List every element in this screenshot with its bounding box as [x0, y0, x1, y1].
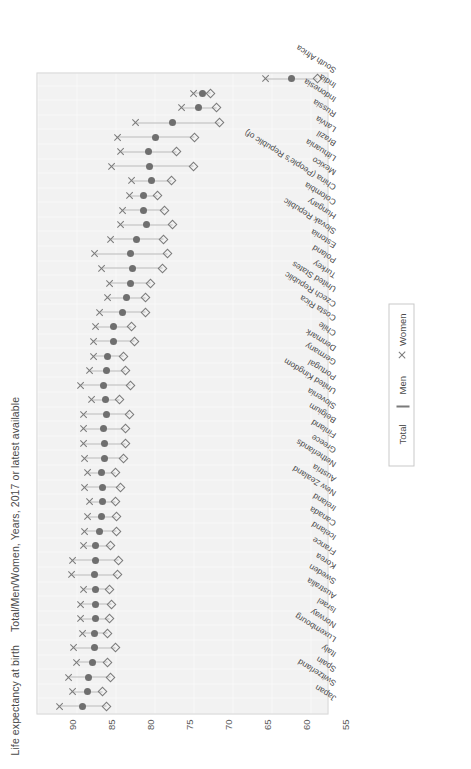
data-point-total[interactable] [126, 279, 133, 286]
page-title: Life expectancy at birth [8, 645, 20, 755]
data-point-women[interactable] [90, 322, 99, 331]
data-point-women[interactable] [104, 278, 113, 287]
data-point-total[interactable] [103, 367, 110, 374]
data-point-total[interactable] [147, 177, 154, 184]
data-point-total[interactable] [100, 381, 107, 388]
data-point-women[interactable] [75, 614, 84, 623]
data-point-women[interactable] [126, 176, 135, 185]
data-point-women[interactable] [68, 643, 77, 652]
data-point-total[interactable] [127, 250, 134, 257]
data-point-total[interactable] [79, 702, 86, 709]
data-point-total[interactable] [83, 688, 90, 695]
data-point-women[interactable] [78, 424, 87, 433]
data-point-women[interactable] [112, 132, 121, 141]
data-point-total[interactable] [100, 440, 107, 447]
data-point-total[interactable] [91, 556, 98, 563]
axis-tick-label: 75 [183, 719, 194, 759]
category-separator [37, 289, 327, 290]
data-point-total[interactable] [97, 469, 104, 476]
data-point-total[interactable] [85, 673, 92, 680]
data-point-women[interactable] [71, 657, 80, 666]
data-point-women[interactable] [89, 249, 98, 258]
data-point-women[interactable] [106, 161, 115, 170]
data-point-women[interactable] [63, 672, 72, 681]
data-point-women[interactable] [117, 205, 126, 214]
data-point-women[interactable] [82, 468, 91, 477]
data-point-women[interactable] [79, 453, 88, 462]
data-point-total[interactable] [139, 192, 146, 199]
data-point-total[interactable] [91, 615, 98, 622]
data-point-total[interactable] [110, 337, 117, 344]
data-point-women[interactable] [102, 293, 111, 302]
data-point-total[interactable] [151, 133, 158, 140]
data-point-total[interactable] [100, 425, 107, 432]
data-point-women[interactable] [67, 687, 76, 696]
legend-item-men[interactable]: Men [396, 375, 407, 407]
data-point-total[interactable] [103, 410, 110, 417]
data-point-total[interactable] [104, 352, 111, 359]
data-point-women[interactable] [79, 482, 88, 491]
data-point-women[interactable] [94, 307, 103, 316]
legend-item-total[interactable]: Total [396, 424, 407, 458]
data-point-women[interactable] [115, 147, 124, 156]
data-point-total[interactable] [168, 119, 175, 126]
data-point-women[interactable] [79, 526, 88, 535]
data-point-total[interactable] [143, 221, 150, 228]
data-point-total[interactable] [90, 644, 97, 651]
legend-item-women[interactable]: Women [396, 313, 407, 360]
data-point-women[interactable] [88, 336, 97, 345]
data-point-total[interactable] [122, 294, 129, 301]
axis-tick-label: 70 [222, 719, 233, 759]
data-point-total[interactable] [145, 148, 152, 155]
data-point-total[interactable] [98, 483, 105, 490]
data-point-women[interactable] [188, 88, 197, 97]
data-point-women[interactable] [176, 103, 185, 112]
data-point-women[interactable] [77, 628, 86, 637]
data-point-women[interactable] [67, 555, 76, 564]
data-point-women[interactable] [78, 584, 87, 593]
data-point-total[interactable] [92, 585, 99, 592]
data-point-women[interactable] [115, 220, 124, 229]
data-point-total[interactable] [90, 571, 97, 578]
data-point-women[interactable] [96, 263, 105, 272]
data-point-total[interactable] [199, 89, 206, 96]
data-point-total[interactable] [132, 235, 139, 242]
data-point-women[interactable] [260, 74, 269, 83]
data-point-women[interactable] [75, 380, 84, 389]
axis-tick-label: 85 [105, 719, 116, 759]
data-point-women[interactable] [130, 118, 139, 127]
data-point-total[interactable] [146, 162, 153, 169]
axis-tick-label: 65 [261, 719, 272, 759]
data-point-women[interactable] [54, 701, 63, 710]
data-point-women[interactable] [86, 395, 95, 404]
data-point-women[interactable] [105, 234, 114, 243]
data-point-total[interactable] [118, 308, 125, 315]
data-point-total[interactable] [100, 454, 107, 461]
data-point-women[interactable] [78, 541, 87, 550]
data-point-women[interactable] [124, 191, 133, 200]
data-point-total[interactable] [139, 206, 146, 213]
data-point-women[interactable] [88, 351, 97, 360]
data-point-total[interactable] [91, 600, 98, 607]
data-point-total[interactable] [98, 498, 105, 505]
chart-figure: Life expectancy at birth Total/Men/Women… [0, 0, 471, 769]
data-point-total[interactable] [287, 75, 294, 82]
data-point-women[interactable] [84, 497, 93, 506]
data-point-women[interactable] [75, 599, 84, 608]
data-point-total[interactable] [88, 658, 95, 665]
data-point-total[interactable] [195, 104, 202, 111]
data-point-women[interactable] [78, 439, 87, 448]
data-point-total[interactable] [109, 323, 116, 330]
data-point-women[interactable] [66, 570, 75, 579]
data-point-women[interactable] [84, 366, 93, 375]
data-point-total[interactable] [90, 629, 97, 636]
data-point-total[interactable] [101, 396, 108, 403]
data-point-women[interactable] [78, 409, 87, 418]
data-point-total[interactable] [96, 527, 103, 534]
category-separator [37, 231, 327, 232]
data-point-total[interactable] [97, 513, 104, 520]
data-point-total[interactable] [128, 264, 135, 271]
legend-label-men: Men [396, 375, 407, 393]
data-point-total[interactable] [92, 542, 99, 549]
data-point-women[interactable] [82, 512, 91, 521]
